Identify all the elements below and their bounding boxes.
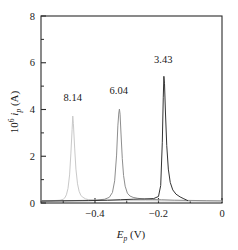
x-axis-tick-labels: −0.4−0.20 [85,208,224,219]
y-tick-label: 0 [30,198,35,209]
chart-plot: 02468 −0.4−0.20 8.146.043.43 106 ip (A) … [0,0,238,250]
x-axis-title: Ep (V) [116,228,146,243]
svg-text:106 ip (A): 106 ip (A) [7,91,23,134]
peak-annotations: 8.146.043.43 [64,54,173,104]
y-tick-label: 6 [30,57,35,68]
y-tick-label: 2 [30,151,35,162]
peak-label: 8.14 [64,92,83,103]
x-tick-label: −0.2 [149,208,168,219]
peak-label: 6.04 [110,85,129,96]
peak-label: 3.43 [154,54,172,65]
y-tick-label: 8 [30,11,35,22]
figure-container: 02468 −0.4−0.20 8.146.043.43 106 ip (A) … [0,0,238,250]
plot-frame [41,16,222,203]
svg-text:Ep (V): Ep (V) [116,228,146,243]
y-axis-major-ticks [41,16,46,203]
x-tick-label: −0.4 [85,208,105,219]
series-line [41,116,222,201]
y-tick-label: 4 [30,104,36,115]
x-tick-label: 0 [219,208,224,219]
y-axis-tick-labels: 02468 [30,11,36,209]
y-axis-title: 106 ip (A) [7,91,23,134]
